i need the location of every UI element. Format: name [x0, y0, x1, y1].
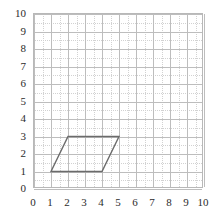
y-tick-label: 3	[6, 131, 26, 142]
plot-area	[33, 13, 203, 188]
y-tick-label: 7	[6, 61, 26, 72]
y-tick-label: 8	[6, 43, 26, 54]
x-tick-label: 9	[177, 197, 195, 208]
x-tick-label: 6	[126, 197, 144, 208]
x-tick-label: 8	[160, 197, 178, 208]
coordinate-grid-figure: 012345678910 012345678910	[0, 0, 224, 224]
x-tick-label: 5	[109, 197, 127, 208]
parallelogram-shape	[51, 137, 119, 172]
y-tick-label: 1	[6, 166, 26, 177]
x-tick-label: 4	[92, 197, 110, 208]
x-tick-label: 0	[24, 197, 42, 208]
gridline-major-vertical	[204, 14, 205, 187]
y-tick-label: 4	[6, 113, 26, 124]
x-tick-label: 1	[41, 197, 59, 208]
y-tick-label: 10	[6, 8, 26, 19]
y-tick-label: 0	[6, 183, 26, 194]
x-tick-label: 3	[75, 197, 93, 208]
gridline-major-horizontal	[34, 189, 202, 190]
y-tick-label: 2	[6, 148, 26, 159]
y-tick-label: 5	[6, 96, 26, 107]
y-tick-label: 6	[6, 78, 26, 89]
y-tick-label: 9	[6, 26, 26, 37]
x-tick-label: 10	[194, 197, 212, 208]
shape-overlay	[34, 14, 204, 189]
x-tick-label: 2	[58, 197, 76, 208]
x-tick-label: 7	[143, 197, 161, 208]
